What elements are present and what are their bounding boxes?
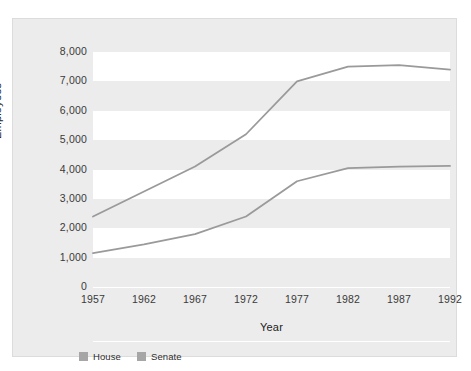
chart-legend: HouseSenate bbox=[79, 351, 182, 362]
y-tick-label: 3,000 bbox=[41, 192, 87, 204]
legend-swatch-icon bbox=[79, 352, 88, 361]
x-axis-tick-labels: 19571962196719721977198219871992 bbox=[93, 293, 450, 309]
chart-figure: Employees 8,0007,0006,0005,0004,0003,000… bbox=[0, 0, 471, 371]
x-tick-label: 1992 bbox=[438, 293, 462, 305]
figure-caption bbox=[0, 0, 471, 14]
series-line-senate bbox=[93, 166, 450, 253]
y-tick-label: 8,000 bbox=[41, 45, 87, 57]
y-axis-title: Employees bbox=[0, 83, 3, 139]
y-axis-tick-labels: 8,0007,0006,0005,0004,0003,0002,0001,000… bbox=[33, 52, 87, 287]
y-tick-label: 2,000 bbox=[41, 221, 87, 233]
x-tick-label: 1957 bbox=[81, 293, 105, 305]
legend-swatch-icon bbox=[137, 352, 146, 361]
plot-area bbox=[93, 52, 450, 287]
x-axis-line bbox=[93, 287, 450, 288]
y-tick-label: 7,000 bbox=[41, 74, 87, 86]
series-line-house bbox=[93, 65, 450, 216]
legend-label: House bbox=[93, 351, 121, 362]
x-tick-label: 1982 bbox=[336, 293, 360, 305]
legend-separator bbox=[93, 341, 450, 342]
y-tick-label: 1,000 bbox=[41, 251, 87, 263]
y-tick-label: 5,000 bbox=[41, 133, 87, 145]
x-tick-label: 1967 bbox=[183, 293, 207, 305]
y-tick-label: 6,000 bbox=[41, 104, 87, 116]
x-axis-title: Year bbox=[93, 321, 450, 333]
legend-item-senate[interactable]: Senate bbox=[137, 351, 182, 362]
chart-panel: Employees 8,0007,0006,0005,0004,0003,000… bbox=[12, 18, 457, 357]
legend-item-house[interactable]: House bbox=[79, 351, 121, 362]
x-tick-label: 1987 bbox=[387, 293, 411, 305]
y-tick-label: 0 bbox=[41, 280, 87, 292]
plot-svg bbox=[93, 52, 450, 287]
x-tick-label: 1977 bbox=[285, 293, 309, 305]
y-tick-label: 4,000 bbox=[41, 163, 87, 175]
x-tick-label: 1972 bbox=[234, 293, 258, 305]
x-tick-label: 1962 bbox=[132, 293, 156, 305]
legend-label: Senate bbox=[151, 351, 182, 362]
